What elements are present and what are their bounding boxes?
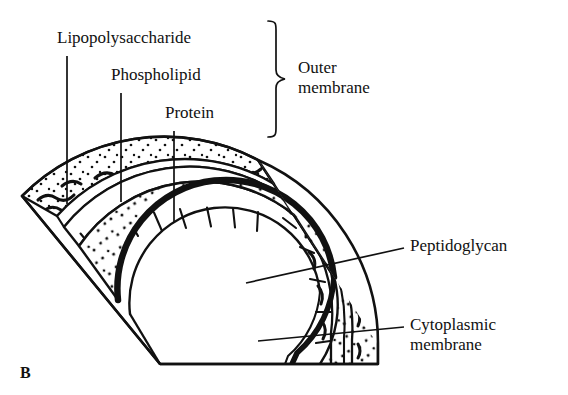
- label-lipopolysaccharide: Lipopolysaccharide: [57, 28, 191, 48]
- label-cytoplasmic-membrane-line1: Cytoplasmic: [410, 315, 496, 335]
- envelope-sector: [22, 137, 378, 364]
- label-outer-membrane-line1: Outer: [298, 58, 370, 78]
- panel-letter: B: [20, 364, 31, 382]
- label-peptidoglycan: Peptidoglycan: [410, 236, 507, 256]
- label-protein: Protein: [165, 103, 214, 123]
- figure-panel-b: Lipopolysaccharide Phospholipid Protein …: [0, 0, 568, 395]
- label-phospholipid: Phospholipid: [111, 65, 201, 85]
- outer-membrane-brace: [268, 21, 285, 137]
- label-cytoplasmic-membrane: Cytoplasmic membrane: [410, 315, 496, 355]
- label-outer-membrane-line2: membrane: [298, 78, 370, 98]
- label-outer-membrane: Outer membrane: [298, 58, 370, 98]
- label-cytoplasmic-membrane-line2: membrane: [410, 335, 496, 355]
